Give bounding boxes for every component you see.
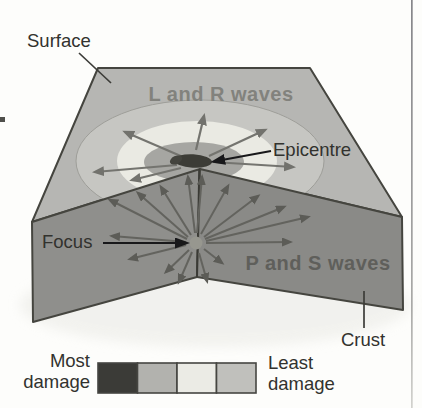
legend-least-label-line1: Least: [268, 352, 313, 373]
surface-label: Surface: [27, 30, 91, 51]
focus-label: Focus: [42, 231, 92, 252]
legend-most-label-line2: damage: [23, 371, 90, 392]
legend-swatch-most: [98, 363, 138, 393]
earthquake-waves-diagram: Surface L and R waves Epicentre Focus P …: [0, 0, 422, 408]
legend-swatch-high: [138, 363, 178, 393]
focus-point: [190, 237, 203, 250]
crust-label: Crust: [341, 329, 385, 350]
l-r-waves-label: L and R waves: [148, 83, 293, 105]
legend-most-label-line1: Most: [50, 350, 90, 371]
earthquake-diagram-page: Surface L and R waves Epicentre Focus P …: [0, 0, 422, 408]
p-s-waves-label: P and S waves: [245, 252, 390, 274]
page-rule-line: [411, 0, 413, 408]
legend-least-label-line2: damage: [268, 373, 335, 394]
seismic-arrow: [206, 242, 290, 243]
epicentre-label: Epicentre: [273, 139, 351, 160]
legend-swatch-least: [217, 363, 257, 393]
scan-mark: [0, 117, 5, 122]
legend-swatch-medium: [177, 363, 217, 393]
